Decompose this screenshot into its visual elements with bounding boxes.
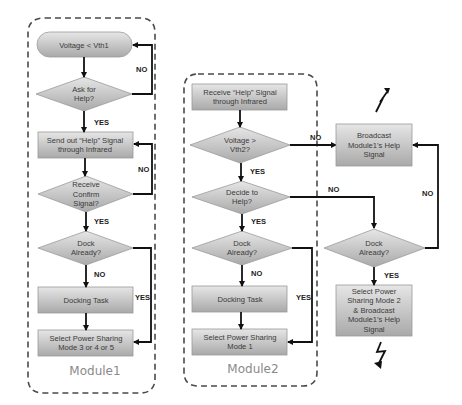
label-m2-decide-no: NO [328, 185, 339, 194]
node-label-line: Decide to [226, 188, 258, 197]
node-label-line: Confirm [73, 190, 100, 199]
label-m1-dock-no: NO [94, 270, 105, 279]
node-label-line: Dock [365, 239, 383, 248]
label-m3-dock-yes: YES [384, 271, 399, 280]
label-m2-dock-yes: YES [296, 293, 311, 302]
node-label-line: Module1’s Help [348, 315, 400, 324]
node-label-line: Signal? [73, 199, 98, 208]
node-label-line: Send out “Help” Signal [47, 136, 124, 145]
node-label-line: Docking Task [63, 296, 108, 305]
node-label-line: Signal [363, 325, 384, 334]
node-label-line: Already? [71, 248, 101, 257]
node-label-line: Voltage > [224, 136, 256, 145]
node-label-line: Mode 1 [227, 342, 252, 351]
node-label-m2-docking: Docking Task [217, 295, 262, 304]
label-m1-dock-yes: YES [135, 293, 150, 302]
node-label-line: through Infrared [58, 145, 112, 154]
node-label-line: Ask for [72, 85, 96, 94]
node-label-line: Broadcast [357, 131, 392, 140]
label-m2-voltage-no: NO [310, 133, 321, 142]
node-label-line: Docking Task [217, 295, 262, 304]
node-label-line: Dock [77, 239, 95, 248]
node-label-m1-confirm: ReceiveConfirmSignal? [72, 180, 99, 208]
wireless-signal-icon [376, 88, 390, 112]
node-label-line: Select Power [352, 287, 397, 296]
flowchart: Module1 Module2 Voltage < Vth1 Ask forHe… [0, 0, 462, 405]
node-label-m1-docking: Docking Task [63, 296, 108, 305]
label-m1-ask-no: NO [136, 65, 147, 74]
node-label-line: Help? [74, 94, 94, 103]
label-m2-dock-no: NO [251, 269, 262, 278]
node-label-line: Help? [232, 197, 252, 206]
module2-label: Module2 [227, 362, 278, 376]
node-label-line: Select Power Sharing [49, 334, 122, 343]
label-m1-confirm-no: NO [138, 165, 149, 174]
node-label-m2-receive: Receive “Help” Signalthrough Infrared [203, 88, 277, 107]
module1-label: Module1 [69, 364, 120, 378]
node-label-line: Receive “Help” Signal [203, 88, 277, 97]
label-m3-dock-no: NO [422, 189, 433, 198]
node-label-m1-select: Select Power SharingMode 3 or 4 or 5 [49, 334, 122, 353]
label-m1-confirm-yes: YES [94, 217, 109, 226]
node-label-line: Sharing Mode 2 [347, 296, 401, 305]
node-label-line: & Broadcast [353, 306, 395, 315]
node-label-line: Dock [233, 239, 251, 248]
edge-m2-decide-no [290, 197, 374, 228]
node-label-m1-ask: Ask forHelp? [72, 85, 96, 104]
node-label-line: Already? [359, 248, 389, 257]
node-label-line: Already? [227, 248, 257, 257]
node-label-line: through Infrared [213, 97, 267, 106]
label-m2-voltage-yes: YES [250, 167, 265, 176]
label-m1-ask-yes: YES [94, 118, 109, 127]
node-label-line: Mode 3 or 4 or 5 [58, 343, 114, 352]
node-label-line: Receive [72, 180, 99, 189]
node-label-line: Signal [363, 150, 384, 159]
node-label-line: Vth2? [230, 145, 250, 154]
node-label-line: Voltage < Vth1 [59, 41, 109, 50]
node-label-line: Select Power Sharing [203, 333, 276, 342]
node-label-m1-start: Voltage < Vth1 [59, 41, 109, 50]
node-label-m1-send: Send out “Help” Signalthrough Infrared [47, 136, 124, 155]
wireless-signal-icon [374, 342, 385, 369]
node-label-line: Module1’s Help [348, 141, 400, 150]
label-m2-decide-yes: YES [251, 217, 266, 226]
